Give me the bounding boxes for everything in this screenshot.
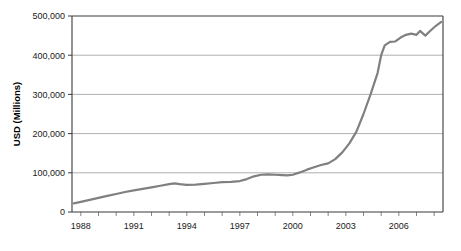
line-chart: 0100,000200,000300,000400,000500,000 198…: [0, 0, 461, 251]
y-tick-label: 300,000: [32, 90, 65, 100]
y-tick-label: 100,000: [32, 168, 65, 178]
y-axis-title: USD (Millions): [11, 82, 22, 146]
y-tick-label: 0: [60, 207, 65, 217]
x-tick-label: 2000: [283, 221, 303, 231]
x-tick-label: 1988: [71, 221, 91, 231]
chart-container: 0100,000200,000300,000400,000500,000 198…: [0, 0, 461, 251]
x-tick-label: 1991: [124, 221, 144, 231]
y-tick-label: 200,000: [32, 129, 65, 139]
x-tick-label: 1994: [177, 221, 197, 231]
x-tick-label: 2003: [336, 221, 356, 231]
y-axis-title-group: USD (Millions): [11, 82, 22, 146]
plot-background: [0, 0, 461, 251]
y-tick-label: 500,000: [32, 11, 65, 21]
x-tick-label: 2006: [389, 221, 409, 231]
x-tick-label: 1997: [230, 221, 250, 231]
y-tick-label: 400,000: [32, 51, 65, 61]
